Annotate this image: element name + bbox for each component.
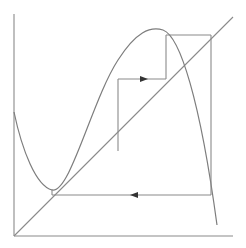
arrow-left-icon <box>130 192 138 198</box>
direction-arrows <box>130 76 148 198</box>
arrow-right-icon <box>140 76 148 82</box>
cobweb-path <box>52 35 211 195</box>
cobweb-diagram <box>0 0 246 248</box>
map-curve <box>14 29 217 225</box>
